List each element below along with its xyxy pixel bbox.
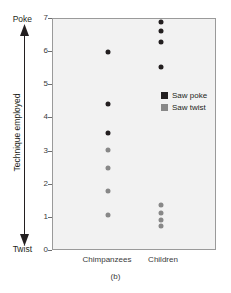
y-axis-title: Technique employed — [13, 53, 22, 213]
x-axis-label-chimpanzees: Chimpanzees — [83, 255, 132, 264]
y-axis-tick-mark-7 — [48, 18, 52, 19]
data-point — [159, 217, 164, 222]
data-point — [159, 40, 164, 45]
dot-plot-figure: Poke Twist Technique employed 76543210 S… — [0, 0, 231, 293]
data-point — [106, 50, 111, 55]
data-point — [159, 202, 164, 207]
data-point — [159, 28, 164, 33]
x-axis-label-children: Children — [148, 255, 178, 264]
legend: Saw pokeSaw twist — [161, 89, 207, 113]
y-axis-tick-mark-5 — [48, 84, 52, 85]
data-point — [159, 65, 164, 70]
legend-item-saw-poke: Saw poke — [161, 89, 207, 101]
y-axis-bottom-pole-label: Twist — [0, 245, 32, 254]
data-point — [106, 147, 111, 152]
data-point — [106, 131, 111, 136]
figure-caption: (b) — [0, 272, 231, 281]
data-points-layer — [53, 19, 215, 249]
legend-swatch-icon — [161, 92, 168, 99]
data-point — [106, 101, 111, 106]
y-axis-tick-6: 6 — [34, 47, 48, 55]
y-axis-tick-mark-3 — [48, 151, 52, 152]
y-axis-tick-mark-6 — [48, 51, 52, 52]
legend-swatch-icon — [161, 104, 168, 111]
plot-area: Saw pokeSaw twist — [52, 18, 216, 250]
y-axis-tick-1: 1 — [34, 213, 48, 221]
data-point — [159, 210, 164, 215]
y-axis-tick-mark-1 — [48, 217, 52, 218]
y-axis-tick-labels: 76543210 — [32, 0, 48, 293]
legend-label: Saw poke — [172, 91, 207, 100]
data-point — [106, 212, 111, 217]
y-axis-tick-mark-0 — [48, 250, 52, 251]
y-axis-tick-0: 0 — [34, 246, 48, 254]
data-point — [159, 224, 164, 229]
y-axis-tick-mark-4 — [48, 117, 52, 118]
y-axis-tick-4: 4 — [34, 113, 48, 121]
y-axis-tick-2: 2 — [34, 180, 48, 188]
y-axis-tick-7: 7 — [34, 14, 48, 22]
y-axis-top-pole-label: Poke — [0, 15, 32, 24]
y-axis-tick-mark-2 — [48, 184, 52, 185]
data-point — [106, 166, 111, 171]
legend-label: Saw twist — [172, 103, 206, 112]
data-point — [106, 189, 111, 194]
data-point — [159, 20, 164, 25]
legend-item-saw-twist: Saw twist — [161, 101, 207, 113]
y-axis-tick-5: 5 — [34, 80, 48, 88]
y-axis-tick-3: 3 — [34, 147, 48, 155]
